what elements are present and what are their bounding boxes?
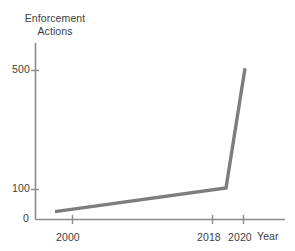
- y-axis-title-line2: Actions: [14, 25, 96, 38]
- line-chart: Enforcement Actions Year 500 100 0 2000 …: [0, 0, 295, 251]
- x-tick-label-2020: 2020: [228, 231, 252, 243]
- y-tick-label-100: 100: [12, 182, 30, 194]
- y-axis-title-line1: Enforcement: [25, 12, 86, 24]
- x-tick-label-2000: 2000: [56, 231, 80, 243]
- x-tick-label-2018: 2018: [197, 231, 221, 243]
- y-axis-title: Enforcement Actions: [14, 12, 96, 38]
- data-series-line: [55, 68, 245, 211]
- y-tick-label-0: 0: [23, 212, 29, 224]
- x-axis-title: Year: [257, 230, 279, 242]
- y-tick-label-500: 500: [12, 63, 30, 75]
